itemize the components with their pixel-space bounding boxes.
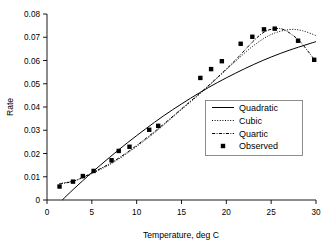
legend-label-observed: Observed — [239, 141, 278, 151]
data-point-observed — [312, 58, 316, 62]
x-axis-tick-label: 20 — [222, 208, 232, 217]
x-axis-tick-label: 15 — [177, 208, 187, 217]
y-axis-tick-label: 0 — [35, 196, 40, 205]
rate-vs-temperature-chart: 00.010.020.030.040.050.060.070.08 051015… — [0, 0, 332, 246]
data-point-observed — [250, 35, 254, 39]
chart-container: 00.010.020.030.040.050.060.070.08 051015… — [0, 0, 332, 246]
chart-legend: QuadraticCubicQuarticObserved — [206, 101, 303, 156]
data-point-observed — [81, 174, 85, 178]
x-axis-tick-label: 10 — [132, 208, 142, 217]
y-axis-tick-label: 0.06 — [24, 57, 40, 66]
y-axis-tick-label: 0.03 — [24, 126, 40, 135]
data-point-observed — [238, 42, 242, 46]
data-point-observed — [71, 179, 75, 183]
data-point-observed — [296, 39, 300, 43]
legend-marker-observed — [221, 144, 225, 148]
data-point-observed — [273, 26, 277, 30]
x-axis-tick-label: 30 — [311, 208, 321, 217]
y-axis-tick-label: 0.07 — [24, 33, 40, 42]
data-point-observed — [117, 149, 121, 153]
y-axis-tick-label: 0.01 — [24, 173, 40, 182]
legend-label-quadratic: Quadratic — [239, 103, 279, 113]
y-axis-tick-group: 00.010.020.030.040.050.060.070.08 — [24, 10, 47, 205]
data-point-observed — [220, 59, 224, 63]
legend-label-cubic: Cubic — [239, 116, 263, 126]
y-axis-title: Rate — [5, 98, 15, 116]
y-axis-tick-label: 0.02 — [24, 150, 40, 159]
x-axis-tick-label: 0 — [45, 208, 50, 217]
y-axis-tick-label: 0.04 — [24, 103, 40, 112]
data-point-observed — [262, 27, 266, 31]
y-axis-tick-label: 0.05 — [24, 80, 40, 89]
data-point-observed — [91, 169, 95, 173]
x-axis-tick-label: 25 — [267, 208, 277, 217]
data-point-observed — [156, 124, 160, 128]
data-point-observed — [57, 184, 61, 188]
data-point-observed — [109, 158, 113, 162]
legend-label-quartic: Quartic — [239, 129, 269, 139]
x-axis-title: Temperature, deg C — [143, 230, 219, 240]
x-axis-tick-label: 5 — [90, 208, 95, 217]
data-point-observed — [198, 76, 202, 80]
x-axis-tick-group: 051015202530 — [45, 200, 321, 217]
data-point-observed — [147, 128, 151, 132]
data-point-observed — [209, 67, 213, 71]
y-axis-tick-label: 0.08 — [24, 10, 40, 19]
data-point-observed — [127, 145, 131, 149]
